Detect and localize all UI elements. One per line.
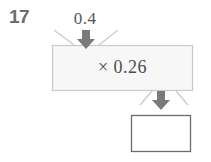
input-funnel-left-line: [54, 30, 74, 45]
output-funnel-right-line: [176, 91, 188, 105]
answer-box[interactable]: [132, 116, 191, 152]
operation-label: × 0.26: [52, 57, 193, 78]
machine-graphics: [0, 0, 211, 162]
output-funnel-left-line: [140, 91, 152, 105]
function-machine-diagram: 17 0.4 × 0.26: [0, 0, 211, 162]
arrow-down-icon: [152, 91, 170, 110]
input-funnel-right-line: [99, 30, 118, 45]
